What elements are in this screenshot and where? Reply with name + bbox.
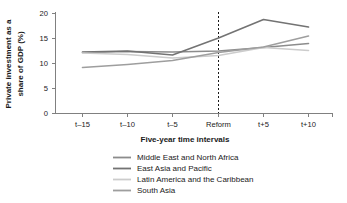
legend-label-latin-america-and-the-caribbean: Latin America and the Caribbean [137,175,254,184]
x-tick-label-t-10: t–10 [120,120,135,129]
x-tick-label-t-plus-10: t+10 [301,120,316,129]
legend-item-south-asia: South Asia [113,186,176,195]
y-tick-label-0: 0 [44,109,48,118]
legend-label-east-asia-and-pacific: East Asia and Pacific [137,164,212,173]
x-tick-label-t-15: t–15 [75,120,90,129]
x-axis: t–15 t–10 t–5 Reform t+5 t+10 [56,114,334,130]
x-tick-label-t-plus-5: t+5 [258,120,269,129]
y-tick-label-5: 5 [44,84,48,93]
legend-label-south-asia: South Asia [137,186,176,195]
legend-item-latin-america-and-the-caribbean: Latin America and the Caribbean [113,175,254,184]
y-axis-title-line2: share of GDP (%) [16,31,25,97]
private-investment-line-chart: Private investment as a share of GDP (%)… [0,0,347,203]
chart-legend: Middle East and North AfricaEast Asia an… [113,153,254,195]
chart-figure: Private investment as a share of GDP (%)… [0,0,347,203]
y-axis-title: Private investment as a share of GDP (%) [4,19,25,108]
legend-item-middle-east-and-north-africa: Middle East and North Africa [113,153,239,162]
x-tick-label-reform: Reform [206,120,231,129]
legend-label-middle-east-and-north-africa: Middle East and North Africa [137,153,239,162]
y-tick-label-20: 20 [40,9,48,18]
series-group [83,20,309,68]
y-tick-label-15: 15 [40,34,48,43]
series-line-east-asia-and-pacific [83,20,309,56]
x-tick-label-t-5: t–5 [167,120,178,129]
y-axis-title-line1: Private investment as a [4,19,13,108]
y-axis: 0 5 10 15 20 [40,9,56,118]
legend-item-east-asia-and-pacific: East Asia and Pacific [113,164,212,173]
x-axis-title: Five-year time intervals [141,135,230,144]
y-tick-label-10: 10 [40,59,48,68]
